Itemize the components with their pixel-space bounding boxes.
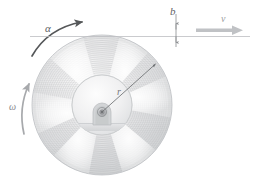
velocity-arrow xyxy=(196,25,243,35)
angular-velocity-indicator: ω xyxy=(9,84,29,134)
velocity-indicator: v xyxy=(196,13,243,35)
alpha-label: α xyxy=(45,22,51,34)
physics-disk-diagram: r α ω b v xyxy=(0,0,254,189)
radius-label: r xyxy=(117,86,121,97)
omega-arc-arrow xyxy=(22,84,29,134)
hub-assembly xyxy=(72,75,133,136)
omega-label: ω xyxy=(9,101,16,112)
offset-label-b: b xyxy=(170,5,176,17)
velocity-label: v xyxy=(221,13,226,24)
offset-dimension-b: b xyxy=(170,5,176,47)
diagram-canvas: r α ω b v xyxy=(0,0,254,189)
